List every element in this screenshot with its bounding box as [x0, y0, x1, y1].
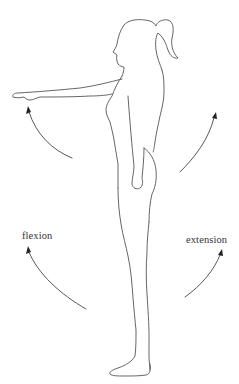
extension-arrow-lower: [185, 255, 220, 297]
raised-arm-outline: [13, 79, 122, 100]
flexion-label: flexion: [22, 230, 52, 241]
extension-arrow-lower-head: [218, 249, 223, 256]
side-arm-outline: [128, 96, 144, 189]
leg-front-outline: [110, 188, 151, 376]
head-outline: [113, 20, 178, 76]
flexion-arrow-lower-head: [26, 246, 31, 254]
leg-back-outline: [146, 222, 150, 370]
extension-label: extension: [186, 234, 227, 245]
torso-front-outline: [106, 76, 122, 188]
flexion-arrow-upper-head: [26, 106, 31, 114]
torso-back-outline: [153, 70, 164, 152]
figure-illustration: [0, 0, 239, 384]
shoulder-motion-diagram: flexion extension: [0, 0, 239, 384]
flexion-arrow-upper: [29, 112, 72, 158]
buttock-outline: [144, 148, 156, 222]
extension-arrow-upper-head: [212, 112, 217, 119]
flexion-arrow-lower: [29, 252, 86, 309]
extension-arrow-upper: [180, 118, 214, 172]
